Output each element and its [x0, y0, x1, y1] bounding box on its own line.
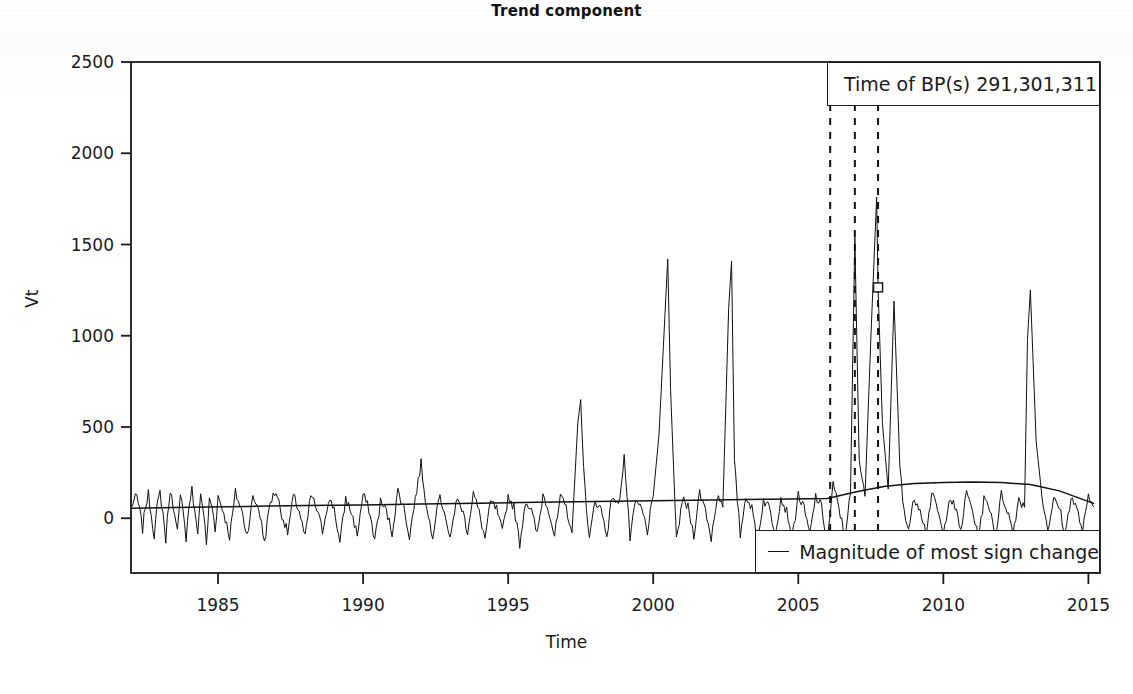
y-tick-label: 1500: [20, 235, 114, 255]
y-axis-title: Vt: [22, 290, 42, 308]
x-tick-label: 1995: [487, 595, 530, 615]
y-tick-label: 0: [20, 508, 114, 528]
y-tick-label: 1000: [20, 326, 114, 346]
x-tick-label: 1985: [196, 595, 239, 615]
legend-label-magnitude: Magnitude of most sign change: [799, 541, 1099, 563]
legend-line-swatch: [768, 551, 789, 552]
series-legend-box[interactable]: Magnitude of most sign change: [755, 530, 1100, 573]
x-tick-label: 2010: [922, 595, 965, 615]
y-tick-label: 2000: [20, 143, 114, 163]
x-axis-title: Time: [0, 632, 1133, 652]
x-axis-ticks: [218, 573, 1088, 584]
y-tick-label: 2500: [20, 52, 114, 72]
x-tick-label: 2015: [1067, 595, 1110, 615]
x-tick-label: 1990: [341, 595, 384, 615]
breakpoint-legend-label: Time of BP(s) 291,301,311: [844, 73, 1097, 95]
y-tick-label: 500: [20, 417, 114, 437]
y-axis-ticks: [121, 62, 131, 518]
plot-frame: [131, 62, 1100, 573]
x-tick-label: 2005: [777, 595, 820, 615]
x-tick-label: 2000: [632, 595, 675, 615]
breakpoint-marker: [874, 283, 883, 292]
breakpoint-legend-box[interactable]: Time of BP(s) 291,301,311: [827, 62, 1100, 106]
chart-canvas: Trend component 05001000150020002500 198…: [0, 0, 1133, 694]
